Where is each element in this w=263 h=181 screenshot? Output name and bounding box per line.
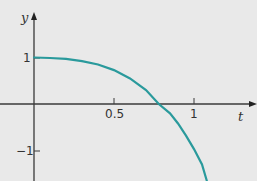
tick-label-t-1: 1	[190, 108, 198, 120]
t-axis-label: t	[238, 110, 243, 123]
y-axis-label: y	[21, 11, 28, 24]
tick-label-y-neg1: −1	[16, 145, 34, 157]
plot-svg	[0, 0, 263, 181]
tick-label-0.5: 0.5	[105, 108, 124, 120]
y-axis-arrow-icon	[31, 12, 37, 20]
tick-label-y-1: 1	[23, 52, 31, 64]
t-axis-arrow-icon	[249, 101, 257, 107]
